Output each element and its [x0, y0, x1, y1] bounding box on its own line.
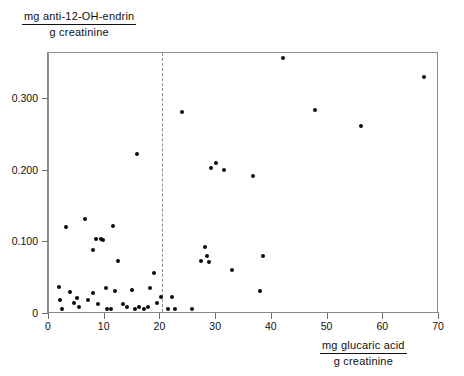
x-axis-title: mg glucaric acid g creatinine — [320, 339, 407, 368]
x-tick-label: 60 — [376, 320, 388, 332]
data-point — [91, 248, 95, 252]
y-tick-mark — [42, 241, 48, 242]
data-point — [173, 307, 177, 311]
data-point — [155, 301, 159, 305]
x-tick-label: 20 — [154, 320, 166, 332]
data-point — [281, 56, 285, 60]
x-tick-label: 40 — [265, 320, 277, 332]
data-point — [86, 298, 90, 302]
x-tick-label: 30 — [209, 320, 221, 332]
y-tick-mark — [42, 98, 48, 99]
data-point — [75, 296, 79, 300]
data-point — [116, 259, 120, 263]
y-tick-mark — [42, 313, 48, 314]
x-tick-mark — [438, 313, 439, 319]
data-point — [130, 288, 134, 292]
y-tick-label: 0.300 — [0, 92, 38, 104]
x-tick-mark — [104, 313, 105, 319]
x-tick-mark — [159, 313, 160, 319]
data-point — [77, 305, 81, 309]
data-point — [258, 289, 262, 293]
data-point — [180, 110, 184, 114]
data-point — [104, 286, 108, 290]
data-point — [170, 295, 174, 299]
data-point — [148, 286, 152, 290]
data-point — [101, 238, 105, 242]
data-point — [166, 307, 170, 311]
data-point — [137, 305, 141, 309]
data-point — [159, 295, 163, 299]
x-tick-label: 10 — [98, 320, 110, 332]
data-point — [60, 307, 64, 311]
x-tick-mark — [271, 313, 272, 319]
x-axis-line — [48, 312, 439, 313]
data-point — [125, 305, 129, 309]
y-tick-label: 0.200 — [0, 164, 38, 176]
y-axis-title: mg anti-12-OH-endrin g creatinine — [22, 10, 136, 39]
data-point — [109, 307, 113, 311]
data-point — [230, 268, 234, 272]
data-point — [121, 302, 125, 306]
x-tick-mark — [382, 313, 383, 319]
data-point — [203, 245, 207, 249]
data-point — [72, 301, 76, 305]
data-point — [113, 289, 117, 293]
scatter-plot-figure: mg anti-12-OH-endrin g creatinine mg glu… — [0, 0, 464, 376]
data-point — [91, 291, 95, 295]
data-point — [199, 259, 203, 263]
data-point — [214, 161, 218, 165]
data-point — [207, 260, 211, 264]
y-axis-title-numerator: mg anti-12-OH-endrin — [22, 10, 136, 25]
x-tick-mark — [327, 313, 328, 319]
data-point — [57, 285, 61, 289]
data-point — [222, 168, 226, 172]
y-axis-title-denominator: g creatinine — [22, 26, 136, 39]
data-point — [94, 237, 98, 241]
x-tick-mark — [48, 313, 49, 319]
x-axis-title-denominator: g creatinine — [320, 355, 407, 368]
data-point — [205, 254, 209, 258]
x-tick-label: 0 — [45, 320, 51, 332]
y-tick-label: 0 — [0, 307, 38, 319]
data-point — [251, 174, 255, 178]
data-point — [96, 302, 100, 306]
x-tick-label: 50 — [321, 320, 333, 332]
data-point — [209, 166, 213, 170]
data-point — [261, 254, 265, 258]
x-tick-label: 70 — [432, 320, 444, 332]
data-point — [359, 124, 363, 128]
x-axis-title-numerator: mg glucaric acid — [320, 339, 407, 354]
data-point — [64, 225, 68, 229]
data-point — [68, 290, 72, 294]
data-point — [83, 217, 87, 221]
data-point — [111, 224, 115, 228]
x-tick-mark — [215, 313, 216, 319]
y-tick-label: 0.100 — [0, 235, 38, 247]
data-point — [58, 298, 62, 302]
data-point — [135, 152, 139, 156]
data-point — [313, 108, 317, 112]
data-point — [422, 75, 426, 79]
threshold-dashed-line — [162, 53, 163, 312]
y-axis-line — [47, 52, 48, 313]
data-point — [152, 271, 156, 275]
data-point — [146, 305, 150, 309]
plot-frame — [48, 52, 438, 313]
data-point — [190, 307, 194, 311]
y-tick-mark — [42, 170, 48, 171]
